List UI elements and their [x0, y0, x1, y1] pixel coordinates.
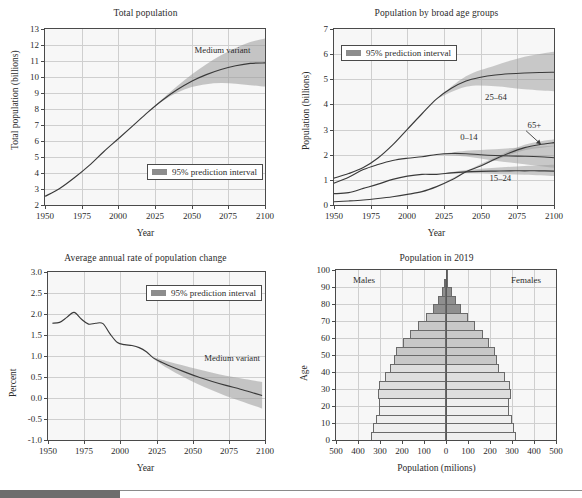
- y-tick: [332, 372, 335, 373]
- y-tick-label: -0.5: [9, 414, 42, 424]
- y-tick: [332, 423, 335, 424]
- y-tick-label: 4: [6, 168, 39, 178]
- x-tick: [468, 441, 469, 444]
- y-tick: [41, 29, 44, 30]
- y-tick: [332, 304, 335, 305]
- y-tick-label: 3.0: [9, 267, 42, 277]
- pyramid-bar-male: [378, 389, 446, 399]
- y-tick-label: 2.0: [9, 309, 42, 319]
- y-tick: [330, 155, 333, 156]
- y-tick-label: 70: [299, 316, 330, 326]
- y-tick-label: 40: [299, 367, 330, 377]
- y-tick: [41, 93, 44, 94]
- chart-annotation: Medium variant: [195, 45, 251, 55]
- y-tick-label: 6: [6, 136, 39, 146]
- y-tick: [332, 440, 335, 441]
- x-tick-label: 2050: [183, 211, 201, 221]
- x-tick: [336, 441, 337, 444]
- x-tick-label: 1950: [39, 446, 57, 456]
- pyramid-bar-female: [446, 355, 497, 365]
- pyramid-bar-male: [379, 398, 446, 408]
- pyramid-label-males: Males: [353, 275, 375, 285]
- y-tick-label: 7: [295, 24, 328, 34]
- y-tick-label: 10: [6, 72, 39, 82]
- y-tick-label: 60: [299, 333, 330, 343]
- x-axis-title-total-population: Year: [0, 228, 291, 238]
- pyramid-bar-female: [446, 347, 495, 357]
- pyramid-bar-male: [403, 338, 446, 348]
- y-tick-label: 80: [299, 299, 330, 309]
- x-tick-label: 1975: [75, 446, 93, 456]
- y-tick-label: 2: [6, 200, 39, 210]
- pyramid-bar-male: [394, 355, 446, 365]
- x-tick-label: 1975: [73, 211, 91, 221]
- x-tick-label: 200: [483, 446, 497, 456]
- pyramid-bar-female: [446, 338, 489, 348]
- pyramid-bar-female: [446, 304, 461, 314]
- x-tick: [424, 441, 425, 444]
- y-tick: [41, 45, 44, 46]
- y-tick-label: 6: [295, 49, 328, 59]
- plot-area-rate-of-change: 95% prediction interval 1950197520002025…: [47, 271, 266, 441]
- y-tick: [332, 338, 335, 339]
- x-tick-label: 2000: [398, 211, 416, 221]
- y-tick: [41, 141, 44, 142]
- y-tick-label: 2.5: [9, 288, 42, 298]
- x-tick-label: 300: [373, 446, 387, 456]
- chart-annotation: 25–64: [485, 92, 507, 102]
- x-tick-label: 2000: [109, 211, 127, 221]
- x-tick-label: 100: [461, 446, 475, 456]
- x-axis-title-population-pyramid: Population (milions): [291, 463, 582, 473]
- x-axis-title-rate-of-change: Year: [0, 463, 291, 473]
- y-tick: [41, 189, 44, 190]
- y-tick-label: 2: [295, 150, 328, 160]
- pyramid-bar-male: [373, 423, 446, 433]
- x-tick-label: 2075: [220, 446, 238, 456]
- y-tick: [41, 77, 44, 78]
- chart-annotation: 15–24: [489, 173, 511, 183]
- y-tick-label: 4: [295, 99, 328, 109]
- x-tick: [446, 441, 447, 444]
- x-tick: [490, 441, 491, 444]
- pyramid-bar-female: [446, 432, 516, 442]
- y-tick: [44, 335, 47, 336]
- y-tick-label: 7: [6, 120, 39, 130]
- y-tick-label: 20: [299, 401, 330, 411]
- y-tick-label: 1.0: [9, 351, 42, 361]
- x-tick-label: 2100: [545, 211, 563, 221]
- pyramid-bar-male: [426, 313, 446, 323]
- x-axis-title-age-groups: Year: [291, 228, 582, 238]
- legend-total-population: 95% prediction interval: [147, 164, 263, 180]
- y-tick-label: 0.0: [9, 393, 42, 403]
- y-tick-label: 3: [6, 184, 39, 194]
- y-tick: [44, 272, 47, 273]
- x-tick-label: 100: [417, 446, 431, 456]
- y-tick-label: 90: [299, 282, 330, 292]
- panel-age-groups: Population by broad age groups Populatio…: [291, 0, 582, 249]
- pyramid-bar-female: [446, 398, 509, 408]
- pyramid-bar-female: [446, 406, 509, 416]
- pyramid-bar-male: [396, 347, 446, 357]
- y-tick-label: 0.5: [9, 372, 42, 382]
- chart-annotation: 65+: [528, 120, 542, 130]
- y-tick: [332, 270, 335, 271]
- pyramid-bar-female: [446, 364, 499, 374]
- chart-annotation: 0–14: [460, 132, 477, 142]
- x-tick-label: 1950: [36, 211, 54, 221]
- y-tick: [44, 398, 47, 399]
- x-tick-label: 0: [444, 446, 449, 456]
- x-tick: [534, 441, 535, 444]
- pyramid-bar-male: [385, 372, 446, 382]
- x-tick-label: 2000: [111, 446, 129, 456]
- y-tick-label: 0: [299, 435, 330, 445]
- series-layer: [45, 29, 267, 207]
- y-tick-label: 5: [295, 74, 328, 84]
- y-tick: [44, 377, 47, 378]
- x-tick-label: 2050: [184, 446, 202, 456]
- pyramid-bar-male: [418, 321, 446, 331]
- y-tick: [44, 419, 47, 420]
- x-tick-label: 300: [505, 446, 519, 456]
- legend-age-groups: 95% prediction interval: [341, 45, 457, 61]
- y-tick-label: 8: [6, 104, 39, 114]
- y-tick-label: 1.5: [9, 330, 42, 340]
